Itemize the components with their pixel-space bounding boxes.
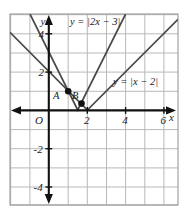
y-tick-label-minus-4: -4 <box>34 181 44 193</box>
x-tick-label-2: 2 <box>84 114 90 126</box>
curve-label-abs-x-minus-2: y = |x − 2| <box>112 76 158 87</box>
x-axis-label: x <box>168 111 174 123</box>
point-b-label: B <box>72 90 79 101</box>
curve-label-abs-2x-minus-3: y = |2x − 3| <box>69 16 120 27</box>
y-tick-label-2: 2 <box>39 66 45 78</box>
point-a-dot <box>65 88 72 95</box>
point-a-label: A <box>52 90 60 101</box>
y-tick-label-4: 4 <box>39 28 45 40</box>
figure-background <box>0 0 184 216</box>
graph-figure: y x O 2 4 6 4 2 -2 -4 y = |2x − 3| y = |… <box>0 0 184 216</box>
coordinate-plane-svg: y x O 2 4 6 4 2 -2 -4 y = |2x − 3| y = |… <box>0 0 184 216</box>
x-tick-label-6: 6 <box>161 114 167 126</box>
y-tick-label-minus-2: -2 <box>34 143 44 155</box>
origin-label: O <box>35 114 43 126</box>
point-b-dot <box>78 100 85 107</box>
y-axis-label: y <box>40 15 46 27</box>
x-tick-label-4: 4 <box>122 114 128 126</box>
